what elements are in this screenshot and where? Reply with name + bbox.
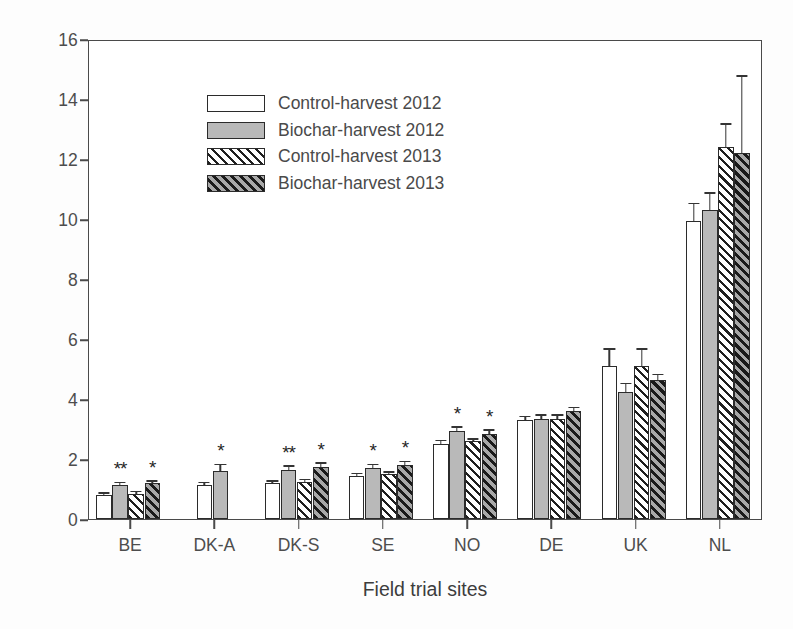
legend-item-open: Control-harvest 2012	[207, 93, 444, 114]
x-tick-mark-DE	[551, 520, 553, 529]
error-bar-stem	[372, 465, 373, 468]
x-tick-label-UK: UK	[623, 535, 647, 556]
error-bar-cap	[636, 348, 647, 349]
x-tick-mark-SE	[382, 520, 384, 529]
error-bar-cap	[536, 414, 547, 415]
significance-mark-DK-S-gray: **	[282, 443, 295, 462]
legend-label: Biochar-harvest 2013	[278, 173, 444, 194]
x-tick-mark-DK-S	[298, 520, 300, 529]
error-bar-DK-S-hatch-dark	[313, 464, 329, 467]
bar-UK-open	[602, 366, 618, 519]
error-bar-stem	[388, 473, 389, 475]
error-bar-cap	[147, 480, 158, 481]
error-bar-stem	[304, 480, 305, 482]
significance-mark-NO-gray: *	[454, 404, 460, 423]
error-bar-stem	[557, 416, 558, 419]
y-tick-label-8: 8	[68, 270, 78, 291]
legend-swatch-hatch-dark	[207, 175, 265, 192]
x-tick-label-BE: BE	[118, 535, 141, 556]
error-bar-DE-gray	[534, 416, 550, 419]
error-bar-cap	[652, 374, 663, 375]
bar-DK-S-open	[265, 483, 281, 519]
bar-DK-S-hatch-light	[297, 482, 313, 520]
legend-swatch-open	[207, 95, 265, 112]
bar-DK-A-gray	[213, 471, 229, 519]
error-bar-stem	[489, 431, 490, 434]
error-bar-SE-hatch-dark	[397, 462, 413, 465]
y-tick-mark-6	[80, 339, 88, 341]
error-bar-UK-hatch-light	[634, 350, 650, 367]
y-tick-label-6: 6	[68, 330, 78, 351]
error-bar-BE-open	[96, 494, 112, 496]
bar-SE-gray	[365, 468, 381, 519]
error-bar-NO-hatch-dark	[482, 431, 498, 434]
bar-BE-gray	[112, 485, 128, 520]
y-tick-mark-16	[80, 39, 88, 41]
error-bar-BE-hatch-light	[128, 492, 144, 494]
error-bar-stem	[220, 465, 221, 471]
error-bar-stem	[709, 194, 710, 211]
significance-mark-BE-gray: **	[114, 459, 127, 478]
x-tick-label-DK-A: DK-A	[193, 535, 235, 556]
error-bar-cap	[468, 438, 479, 439]
bar-NO-hatch-light	[465, 441, 481, 519]
legend-label: Biochar-harvest 2012	[278, 120, 444, 141]
error-bar-cap	[299, 479, 310, 480]
bar-DE-open	[517, 420, 533, 519]
error-bar-stem	[609, 350, 610, 367]
legend-label: Control-harvest 2013	[278, 146, 441, 167]
error-bar-stem	[472, 440, 473, 442]
significance-mark-SE-hatch-dark: *	[402, 438, 408, 457]
bar-SE-hatch-dark	[397, 465, 413, 519]
bar-NL-gray	[702, 210, 718, 519]
x-tick-mark-UK	[635, 520, 637, 529]
error-bar-stem	[119, 483, 120, 485]
error-bar-cap	[604, 348, 615, 349]
error-bar-DK-A-gray	[213, 465, 229, 471]
x-tick-label-SE: SE	[371, 535, 394, 556]
y-tick-mark-0	[80, 519, 88, 521]
error-bar-stem	[657, 375, 658, 380]
error-bar-cap	[568, 407, 579, 408]
bar-UK-gray	[618, 392, 634, 520]
error-bar-stem	[152, 482, 153, 484]
legend-swatch-gray	[207, 122, 265, 139]
x-tick-label-DK-S: DK-S	[278, 535, 320, 556]
y-tick-mark-8	[80, 279, 88, 281]
significance-mark-SE-gray: *	[370, 441, 376, 460]
error-bar-DK-S-hatch-light	[297, 480, 313, 482]
error-bar-cap	[367, 464, 378, 465]
error-bar-NL-hatch-light	[718, 125, 734, 148]
x-tick-label-DE: DE	[539, 535, 563, 556]
error-bar-stem	[741, 77, 742, 154]
error-bar-cap	[315, 462, 326, 463]
error-bar-SE-open	[349, 474, 365, 476]
bar-NO-hatch-dark	[482, 434, 498, 520]
x-axis-ticks: BEDK-ADK-SSENODEUKNL	[88, 520, 762, 560]
error-bar-cap	[399, 461, 410, 462]
error-bar-stem	[272, 482, 273, 484]
error-bar-SE-gray	[365, 465, 381, 468]
significance-mark-NO-hatch-dark: *	[486, 407, 492, 426]
error-bar-stem	[541, 416, 542, 419]
error-bar-cap	[451, 426, 462, 427]
legend-item-hatch-light: Control-harvest 2013	[207, 146, 444, 167]
plot-frame: *********** Control-harvest 2012Biochar-…	[88, 40, 762, 520]
error-bar-cap	[620, 383, 631, 384]
error-bar-cap	[199, 482, 210, 483]
error-bar-cap	[484, 429, 495, 430]
error-bar-cap	[215, 464, 226, 465]
error-bar-stem	[320, 464, 321, 467]
error-bar-cap	[435, 440, 446, 441]
chart-legend: Control-harvest 2012Biochar-harvest 2012…	[207, 93, 444, 194]
bar-DK-S-gray	[281, 470, 297, 520]
error-bar-stem	[356, 474, 357, 476]
bar-UK-hatch-light	[634, 366, 650, 519]
error-bar-DK-S-gray	[281, 467, 297, 470]
error-bar-cap	[267, 480, 278, 481]
error-bar-stem	[456, 428, 457, 431]
bar-BE-hatch-dark	[145, 483, 161, 519]
y-tick-label-4: 4	[68, 390, 78, 411]
error-bar-cap	[114, 482, 125, 483]
error-bar-stem	[525, 417, 526, 420]
